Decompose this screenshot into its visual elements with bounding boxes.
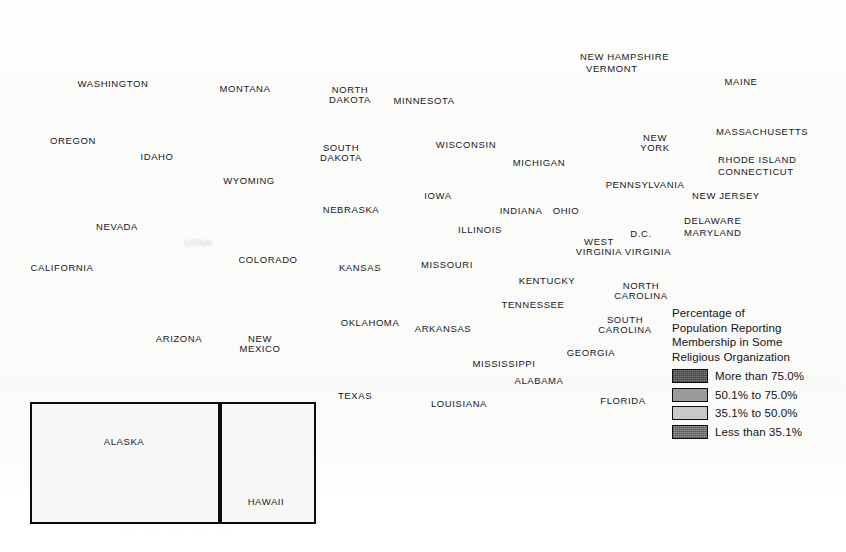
county-block xyxy=(259,101,272,114)
county-block xyxy=(605,109,618,120)
county-block xyxy=(332,279,339,283)
county-block xyxy=(279,370,293,377)
county-block xyxy=(533,281,547,286)
county-block xyxy=(568,335,582,340)
county-block xyxy=(324,400,336,410)
legend-item-4: Less than 35.1% xyxy=(672,424,844,440)
county-block xyxy=(607,217,620,225)
county-block xyxy=(352,87,366,95)
county-block xyxy=(302,138,313,151)
county-block xyxy=(599,335,612,343)
county-block xyxy=(240,368,251,377)
county-block xyxy=(413,162,422,169)
county-block xyxy=(437,134,448,138)
county-block xyxy=(274,255,289,259)
county-block xyxy=(139,305,144,316)
county-block xyxy=(365,88,374,95)
county-block xyxy=(100,143,106,147)
county-block xyxy=(497,269,503,274)
county-block xyxy=(117,210,130,217)
county-block xyxy=(430,363,441,374)
county-block xyxy=(357,421,363,428)
county-block xyxy=(323,363,335,367)
county-block xyxy=(162,322,171,329)
county-block xyxy=(371,249,379,256)
county-block xyxy=(176,209,187,218)
county-block xyxy=(364,74,373,78)
county-block xyxy=(337,192,347,198)
county-block xyxy=(317,62,323,72)
county-block xyxy=(228,139,233,148)
county-block xyxy=(536,358,547,365)
legend-swatch-1 xyxy=(672,369,708,383)
county-block xyxy=(301,114,307,118)
county-block xyxy=(269,148,282,157)
county-block xyxy=(349,151,355,156)
county-block xyxy=(261,335,267,340)
county-block xyxy=(151,124,162,133)
county-block xyxy=(256,266,265,274)
county-block xyxy=(456,227,469,232)
county-block xyxy=(314,112,322,120)
county-block xyxy=(420,193,426,204)
county-block xyxy=(344,363,359,373)
county-block xyxy=(118,242,126,252)
county-block xyxy=(160,90,166,97)
county-block xyxy=(203,198,218,207)
county-block xyxy=(135,103,144,110)
county-block xyxy=(504,264,515,271)
county-block xyxy=(474,344,485,348)
county-block xyxy=(335,436,340,444)
county-block xyxy=(181,182,189,187)
county-block xyxy=(392,57,398,67)
county-block xyxy=(256,320,267,327)
county-block xyxy=(622,293,632,298)
county-block xyxy=(541,179,555,190)
county-block xyxy=(513,221,519,230)
county-block xyxy=(154,96,160,106)
county-block xyxy=(541,240,551,247)
county-block xyxy=(116,233,127,241)
county-block xyxy=(146,184,158,189)
county-block xyxy=(322,199,329,211)
county-block xyxy=(323,214,329,223)
county-block xyxy=(217,317,232,324)
county-block xyxy=(268,177,275,181)
county-block xyxy=(239,351,249,360)
county-block xyxy=(458,82,467,88)
legend-item-3: 35.1% to 50.0% xyxy=(672,405,844,421)
county-block xyxy=(305,348,317,357)
county-block xyxy=(592,210,598,220)
county-block xyxy=(195,344,200,357)
county-block xyxy=(573,301,582,310)
county-block xyxy=(389,283,396,293)
legend-label-2: 50.1% to 75.0% xyxy=(715,389,798,401)
county-block xyxy=(522,321,529,334)
county-block xyxy=(435,284,442,290)
county-block xyxy=(432,142,444,153)
county-block xyxy=(157,84,167,89)
county-block xyxy=(117,49,130,54)
county-block xyxy=(508,382,514,393)
county-block xyxy=(347,222,357,232)
county-block xyxy=(135,62,145,75)
county-block xyxy=(156,230,161,242)
county-block xyxy=(614,335,622,347)
county-block xyxy=(153,93,159,97)
county-block xyxy=(398,289,403,293)
county-block xyxy=(309,381,319,390)
county-block xyxy=(162,270,172,280)
county-block xyxy=(736,108,743,117)
county-block xyxy=(389,225,396,231)
county-block xyxy=(386,352,392,358)
county-block xyxy=(213,112,220,125)
county-block xyxy=(634,180,641,191)
county-block xyxy=(178,310,190,316)
county-block xyxy=(566,320,577,328)
county-block xyxy=(585,370,600,377)
county-block xyxy=(220,174,227,180)
county-block xyxy=(284,63,291,76)
county-block xyxy=(641,198,655,203)
county-block xyxy=(558,293,564,298)
county-block xyxy=(104,216,114,225)
